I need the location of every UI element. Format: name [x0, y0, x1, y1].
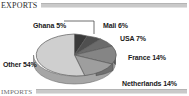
- section-title-imports: IMPORTS: [0, 88, 32, 96]
- pie-slices: [36, 34, 116, 76]
- pie-chart-graphic: [0, 10, 189, 86]
- exports-pie-chart-screenshot: EXPORTS: [0, 0, 189, 96]
- leader-line-ghana: [64, 21, 94, 34]
- section-header-imports: IMPORTS: [0, 86, 189, 96]
- pie-label-other: Other 54%: [3, 61, 37, 69]
- pie-chart: Ghana 5% Mali 6% USA 7% France 14% Nethe…: [0, 10, 189, 86]
- section-title-exports: EXPORTS: [0, 1, 37, 10]
- pie-label-usa: USA 7%: [120, 35, 146, 43]
- pie-label-ghana: Ghana 5%: [33, 22, 66, 30]
- header-rule-bottom: [36, 89, 187, 94]
- header-rule-top: [41, 3, 187, 8]
- pie-label-mali: Mali 6%: [103, 22, 128, 30]
- pie-label-france: France 14%: [128, 54, 166, 62]
